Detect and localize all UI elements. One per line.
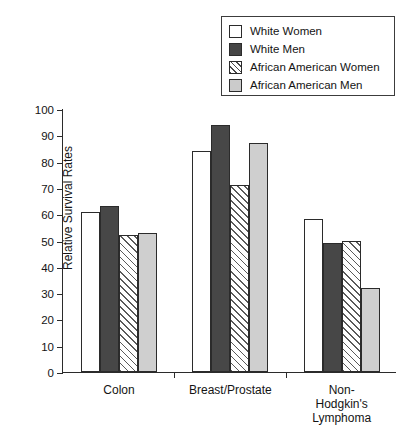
bar <box>249 143 268 372</box>
legend-label: African American Men <box>250 79 363 92</box>
y-axis-tick <box>57 215 63 216</box>
bar <box>342 241 361 373</box>
x-axis-group-label: Breast/Prostate <box>189 383 272 397</box>
y-axis-tick <box>57 242 63 243</box>
y-axis-tick-label: 80 <box>41 157 54 169</box>
y-axis-tick <box>57 136 63 137</box>
y-axis-tick-label: 70 <box>41 183 54 195</box>
y-axis-tick <box>57 320 63 321</box>
y-axis-tick-label: 20 <box>41 314 54 326</box>
x-axis-tick <box>174 372 175 378</box>
bar <box>138 233 157 372</box>
y-axis-tick-label: 90 <box>41 130 54 142</box>
y-axis-tick <box>57 163 63 164</box>
legend-swatch-african-american-women-icon <box>229 61 242 74</box>
y-axis-tick-label: 30 <box>41 288 54 300</box>
bar <box>323 243 342 372</box>
y-axis-tick <box>57 110 63 111</box>
bar <box>81 212 100 372</box>
x-axis-tick <box>286 372 287 378</box>
legend-label: White Women <box>250 25 322 38</box>
bar <box>119 235 138 372</box>
legend-swatch-african-american-men-icon <box>229 79 242 92</box>
legend-label: White Men <box>250 43 305 56</box>
chart-legend: White Women White Men African American W… <box>221 16 395 96</box>
legend-swatch-white-women-icon <box>229 25 242 38</box>
bar <box>304 219 323 372</box>
y-axis-tick-label: 60 <box>41 209 54 221</box>
x-axis-group-label: Non-Hodgkin's Lymphoma <box>312 383 371 425</box>
y-axis-tick <box>57 189 63 190</box>
y-axis-tick <box>57 373 63 374</box>
legend-item: African American Men <box>229 77 387 94</box>
y-axis-tick <box>57 268 63 269</box>
legend-item: White Women <box>229 23 387 40</box>
x-axis-group-label: Colon <box>103 383 134 397</box>
legend-label: African American Women <box>250 61 380 74</box>
legend-swatch-white-men-icon <box>229 43 242 56</box>
y-axis-tick-label: 100 <box>35 104 54 116</box>
y-axis-tick-label: 40 <box>41 262 54 274</box>
bar <box>192 151 211 372</box>
y-axis-tick <box>57 294 63 295</box>
y-axis-tick-label: 0 <box>48 367 54 379</box>
plot-area: 0102030405060708090100ColonBreast/Prosta… <box>62 110 396 373</box>
y-axis-tick <box>57 347 63 348</box>
bar <box>211 125 230 372</box>
legend-item: White Men <box>229 41 387 58</box>
legend-item: African American Women <box>229 59 387 76</box>
y-axis-tick-label: 50 <box>41 236 54 248</box>
bar <box>361 288 380 372</box>
bar <box>100 206 119 372</box>
y-axis-tick-label: 10 <box>41 341 54 353</box>
bar <box>230 185 249 372</box>
